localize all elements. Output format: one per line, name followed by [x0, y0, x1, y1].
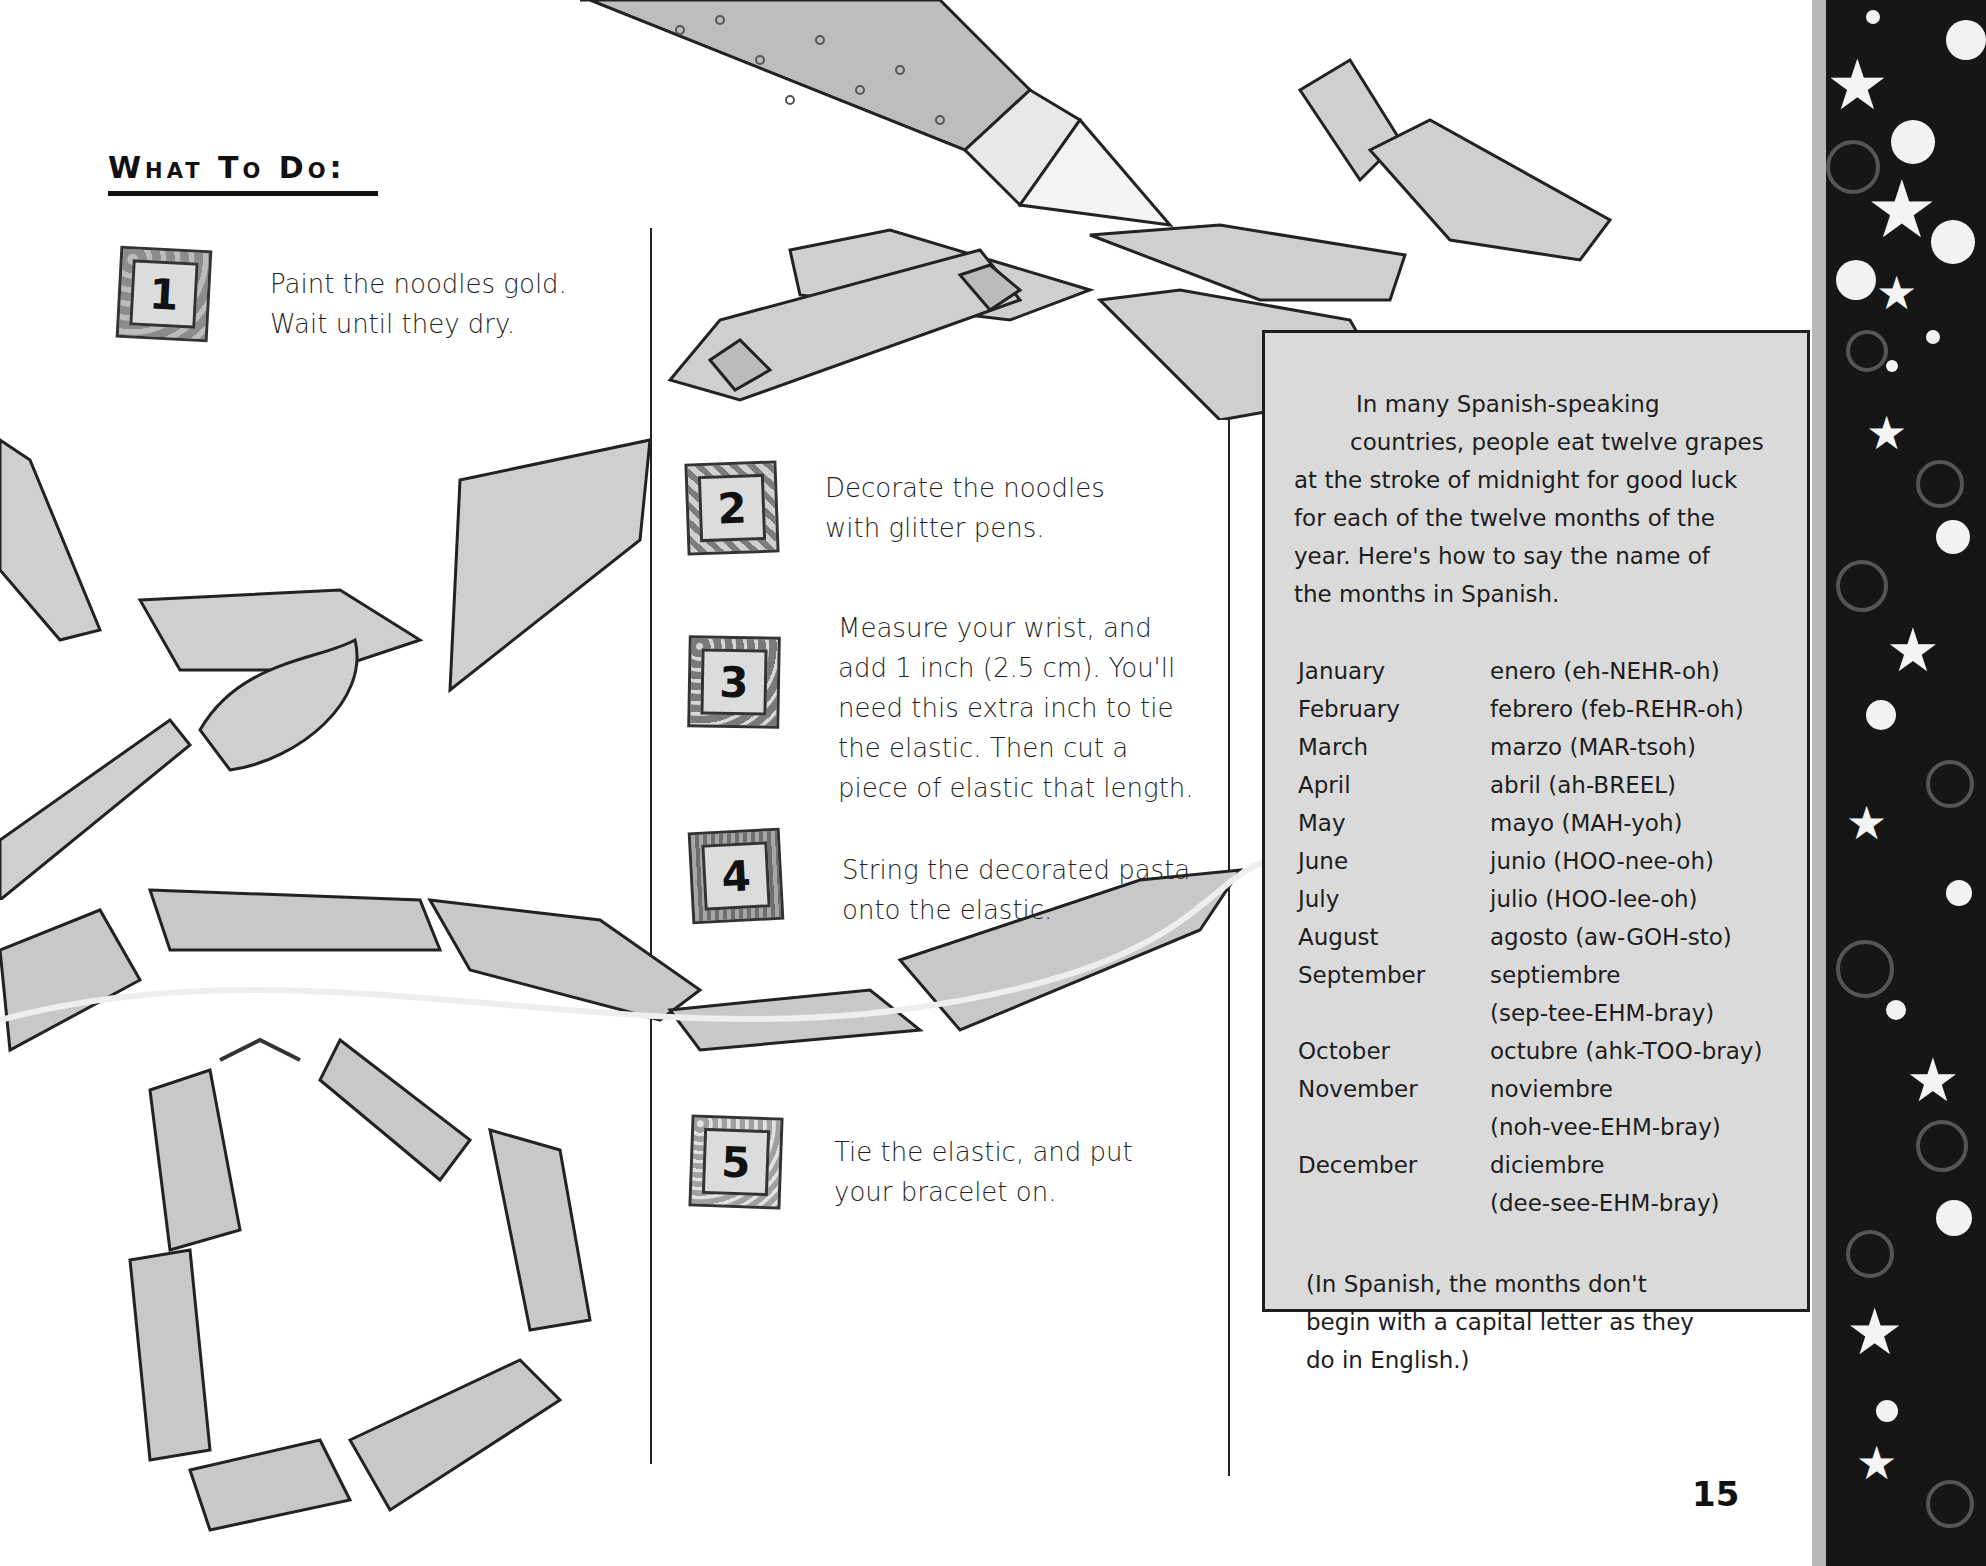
- dot-icon: [1866, 700, 1896, 730]
- intro-line: countries, people eat twelve grapes: [1294, 423, 1794, 461]
- note-line: begin with a capital letter as they: [1306, 1303, 1776, 1341]
- step-1: 1: [118, 248, 210, 340]
- intro-line: for each of the twelve months of the: [1294, 499, 1794, 537]
- swirl-icon: [1916, 460, 1964, 508]
- month-english: December: [1298, 1146, 1490, 1184]
- month-english: [1298, 1184, 1490, 1222]
- month-english: June: [1298, 842, 1490, 880]
- dot-icon: [1946, 880, 1972, 906]
- star-icon: ★: [1826, 50, 1889, 120]
- month-row: Januaryenero (eh-NEHR-oh): [1298, 652, 1798, 690]
- month-english: March: [1298, 728, 1490, 766]
- month-row: (sep-tee-EHM-bray): [1298, 994, 1798, 1032]
- star-icon: ★: [1846, 1300, 1903, 1364]
- swirl-icon: [1926, 760, 1974, 808]
- month-row: Junejunio (HOO-nee-oh): [1298, 842, 1798, 880]
- month-english: November: [1298, 1070, 1490, 1108]
- dot-icon: [1886, 1000, 1906, 1020]
- step-text-line: String the decorated pasta: [842, 850, 1190, 890]
- swirl-icon: [1836, 940, 1894, 998]
- step-5-text: Tie the elastic, and put your bracelet o…: [834, 1132, 1133, 1212]
- intro-line: the months in Spanish.: [1294, 575, 1794, 613]
- swirl-icon: [1916, 1120, 1968, 1172]
- month-english: August: [1298, 918, 1490, 956]
- month-spanish: mayo (MAH-yoh): [1490, 804, 1798, 842]
- step-number: 2: [698, 474, 766, 542]
- step-text-line: your bracelet on.: [834, 1172, 1133, 1212]
- dot-icon: [1891, 120, 1935, 164]
- month-spanish: noviembre: [1490, 1070, 1798, 1108]
- step-number-badge: 4: [688, 828, 785, 925]
- star-icon: ★: [1856, 1440, 1897, 1486]
- month-row: (dee-see-EHM-bray): [1298, 1184, 1798, 1222]
- month-row: Februaryfebrero (feb-REHR-oh): [1298, 690, 1798, 728]
- step-5: 5: [690, 1116, 782, 1208]
- dot-icon: [1946, 20, 1986, 60]
- month-spanish: septiembre: [1490, 956, 1798, 994]
- step-2-text: Decorate the noodles with glitter pens.: [825, 468, 1105, 548]
- step-3: 3: [688, 636, 780, 728]
- month-row: Julyjulio (HOO-lee-oh): [1298, 880, 1798, 918]
- month-english: July: [1298, 880, 1490, 918]
- month-spanish: enero (eh-NEHR-oh): [1490, 652, 1798, 690]
- star-icon: ★: [1846, 800, 1887, 846]
- month-spanish: (sep-tee-EHM-bray): [1490, 994, 1798, 1032]
- month-row: Decemberdiciembre: [1298, 1146, 1798, 1184]
- step-text-line: Decorate the noodles: [825, 468, 1105, 508]
- month-spanish: febrero (feb-REHR-oh): [1490, 690, 1798, 728]
- step-text-line: onto the elastic.: [842, 890, 1190, 930]
- swirl-icon: [1846, 330, 1888, 372]
- step-text-line: piece of elastic that length.: [838, 768, 1194, 808]
- month-spanish: (dee-see-EHM-bray): [1490, 1184, 1798, 1222]
- month-spanish: diciembre: [1490, 1146, 1798, 1184]
- month-row: Aprilabril (ah-BREEL): [1298, 766, 1798, 804]
- step-1-text: Paint the noodles gold. Wait until they …: [270, 264, 567, 344]
- month-english: May: [1298, 804, 1490, 842]
- step-number-badge: 5: [688, 1114, 783, 1209]
- step-text-line: add 1 inch (2.5 cm). You'll: [838, 648, 1194, 688]
- dot-icon: [1936, 1200, 1972, 1236]
- step-2: 2: [686, 462, 778, 554]
- step-text-line: with glitter pens.: [825, 508, 1105, 548]
- month-row: Septemberseptiembre: [1298, 956, 1798, 994]
- step-number: 5: [702, 1128, 770, 1196]
- pasta-bracelet-illustration: [90, 1020, 650, 1550]
- month-english: [1298, 1108, 1490, 1146]
- month-row: (noh-vee-EHM-bray): [1298, 1108, 1798, 1146]
- step-3-text: Measure your wrist, and add 1 inch (2.5 …: [838, 608, 1194, 808]
- step-text-line: Paint the noodles gold.: [270, 264, 567, 304]
- month-english: January: [1298, 652, 1490, 690]
- page-number: 15: [1692, 1474, 1739, 1514]
- star-icon: ★: [1906, 1050, 1960, 1110]
- dot-icon: [1931, 220, 1975, 264]
- star-icon: ★: [1886, 620, 1940, 680]
- step-number: 1: [129, 259, 198, 328]
- star-icon: ★: [1876, 270, 1917, 316]
- dot-icon: [1926, 330, 1940, 344]
- swirl-icon: [1846, 1230, 1894, 1278]
- starry-border-decoration: ★ ★ ★ ★ ★ ★ ★ ★ ★: [1812, 0, 1986, 1566]
- note-line: (In Spanish, the months don't: [1306, 1265, 1776, 1303]
- month-spanish: agosto (aw-GOH-sto): [1490, 918, 1798, 956]
- dot-icon: [1876, 1400, 1898, 1422]
- step-text-line: need this extra inch to tie: [838, 688, 1194, 728]
- month-row: Augustagosto (aw-GOH-sto): [1298, 918, 1798, 956]
- sidebar-note: (In Spanish, the months don't begin with…: [1306, 1265, 1776, 1379]
- step-text-line: Tie the elastic, and put: [834, 1132, 1133, 1172]
- month-row: Marchmarzo (MAR-tsoh): [1298, 728, 1798, 766]
- month-spanish: junio (HOO-nee-oh): [1490, 842, 1798, 880]
- top-right-pasta-illustration: [1290, 50, 1620, 270]
- month-spanish: abril (ah-BREEL): [1490, 766, 1798, 804]
- note-line: do in English.): [1306, 1341, 1776, 1379]
- month-spanish: (noh-vee-EHM-bray): [1490, 1108, 1798, 1146]
- step-number: 3: [700, 648, 767, 715]
- intro-line: at the stroke of midnight for good luck: [1294, 461, 1794, 499]
- month-spanish: marzo (MAR-tsoh): [1490, 728, 1798, 766]
- swirl-icon: [1826, 140, 1880, 194]
- step-number-badge: 2: [684, 460, 779, 555]
- step-number: 4: [701, 841, 770, 910]
- step-text-line: Measure your wrist, and: [838, 608, 1194, 648]
- month-english: February: [1298, 690, 1490, 728]
- step-text-line: the elastic. Then cut a: [838, 728, 1194, 768]
- month-row: Maymayo (MAH-yoh): [1298, 804, 1798, 842]
